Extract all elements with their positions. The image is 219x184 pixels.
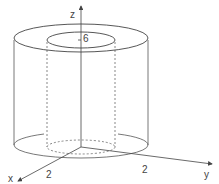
x-radius-label: 2	[46, 169, 52, 180]
x-axis-label: x	[8, 173, 13, 184]
cylinder-shell-diagram: z 6 x 2 2 y	[0, 0, 219, 184]
z-axis-label: z	[70, 9, 75, 20]
y-radius-label: 2	[142, 164, 148, 175]
y-axis-label: y	[204, 169, 209, 180]
y-axis	[81, 147, 212, 164]
outer-bottom-ellipse-back-left	[14, 134, 44, 145]
outer-bottom-ellipse-back-right	[118, 134, 148, 145]
height-label: 6	[83, 33, 89, 44]
